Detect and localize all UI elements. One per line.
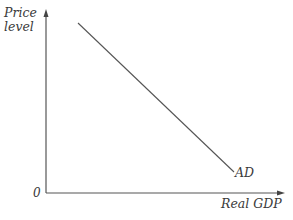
x-axis-label: Real GDP — [221, 197, 282, 211]
ad-curve-label: AD — [235, 166, 254, 180]
y-axis-label-line2: level — [4, 20, 44, 34]
ad-chart: Price level 0 Real GDP AD — [0, 0, 293, 220]
ad-curve — [78, 23, 234, 172]
origin-label: 0 — [33, 186, 41, 200]
x-axis-arrow-icon — [277, 191, 285, 196]
y-axis-label-line1: Price — [4, 6, 44, 20]
y-axis-arrow-icon — [44, 9, 49, 17]
y-axis-label: Price level — [4, 6, 44, 34]
